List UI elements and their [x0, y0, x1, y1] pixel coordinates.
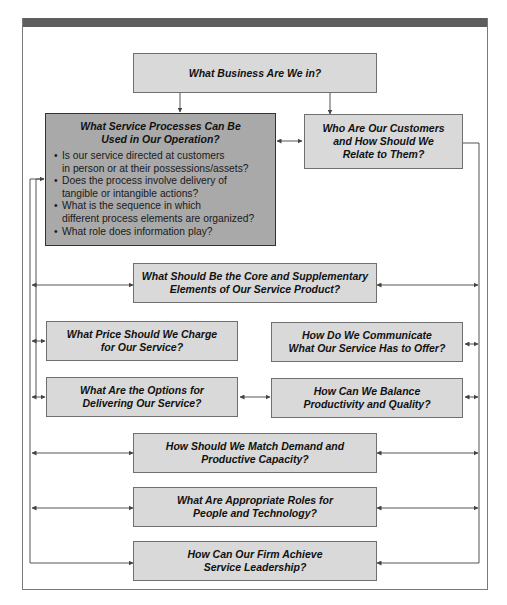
node-people-technology: What Are Appropriate Roles for People an… [133, 487, 377, 527]
node-price-label: What Price Should We Charge for Our Serv… [67, 328, 217, 354]
process-question: What is the sequence in which different … [54, 200, 269, 225]
node-people-label: What Are Appropriate Roles for People an… [177, 494, 333, 520]
node-demand-label: How Should We Match Demand and Productiv… [166, 440, 344, 466]
node-price: What Price Should We Charge for Our Serv… [46, 321, 238, 361]
node-core-label: What Should Be the Core and Supplementar… [142, 270, 368, 296]
node-service-processes: What Service Processes Can Be Used in Ou… [45, 113, 276, 246]
node-delivering: What Are the Options for Delivering Our … [46, 377, 238, 417]
node-processes-title: What Service Processes Can Be Used in Ou… [80, 120, 241, 146]
process-question: Does the process involve delivery of tan… [54, 175, 269, 200]
node-delivering-label: What Are the Options for Delivering Our … [80, 384, 204, 410]
node-communicate: How Do We Communicate What Our Service H… [271, 322, 463, 362]
node-business-label: What Business Are We in? [189, 67, 321, 80]
node-productivity: How Can We Balance Productivity and Qual… [271, 378, 463, 418]
node-business: What Business Are We in? [133, 53, 377, 93]
node-customers: Who Are Our Customers and How Should We … [304, 114, 463, 169]
node-demand: How Should We Match Demand and Productiv… [133, 433, 377, 473]
node-productivity-label: How Can We Balance Productivity and Qual… [303, 385, 430, 411]
process-question: What role does information play? [54, 226, 269, 239]
node-core-supplementary: What Should Be the Core and Supplementar… [133, 263, 377, 303]
node-customers-label: Who Are Our Customers and How Should We … [322, 122, 444, 161]
node-communicate-label: How Do We Communicate What Our Service H… [289, 329, 446, 355]
node-leadership-label: How Can Our Firm Achieve Service Leaders… [188, 548, 323, 574]
process-question: Is our service directed at customers in … [54, 150, 269, 175]
node-service-leadership: How Can Our Firm Achieve Service Leaders… [133, 541, 377, 581]
process-question-list: Is our service directed at customers in … [46, 150, 275, 238]
